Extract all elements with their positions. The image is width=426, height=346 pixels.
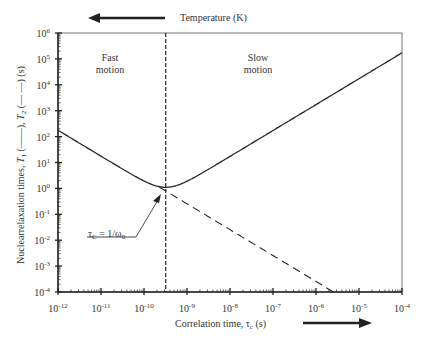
y-tick-label: 101 — [37, 157, 51, 169]
y-tick-label: 105 — [37, 53, 51, 65]
slow-motion-label: Slowmotion — [244, 52, 272, 75]
x-tick-label: 10-8 — [222, 302, 238, 314]
temperature-arrow-head — [88, 13, 100, 23]
relaxation-chart: 10-410-310-210-110010110210310410510610-… — [0, 0, 426, 346]
y-tick-label: 10-3 — [34, 260, 50, 272]
x-axis-label: Correlation time, τc (s) — [175, 318, 266, 331]
t2-curve — [160, 187, 334, 292]
tau-annotation: τC = 1/ω0 — [88, 228, 126, 241]
x-tick-label: 10-7 — [265, 302, 281, 314]
y-tick-label: 10-1 — [34, 208, 50, 220]
x-tick-label: 10-10 — [134, 302, 154, 314]
y-tick-label: 100 — [37, 182, 51, 194]
y-tick-label: 104 — [37, 79, 51, 91]
plot-area: 10-410-310-210-110010110210310410510610-… — [15, 12, 410, 331]
y-axis-label: Nuclearrelaxation times, T1 (——), T2 (— … — [15, 66, 28, 264]
y-tick-label: 10-4 — [34, 286, 50, 298]
x-tick-label: 10-12 — [48, 302, 68, 314]
x-tick-label: 10-5 — [351, 302, 367, 314]
x-tick-label: 10-4 — [394, 302, 410, 314]
y-tick-label: 106 — [37, 27, 51, 39]
y-tick-label: 10-2 — [34, 234, 50, 246]
y-tick-label: 102 — [37, 131, 51, 143]
annotation-arrowhead — [153, 194, 161, 203]
temperature-label: Temperature (K) — [180, 12, 247, 24]
x-tick-label: 10-9 — [179, 302, 195, 314]
correlation-arrow-head — [359, 318, 372, 328]
x-tick-label: 10-11 — [91, 302, 111, 314]
fast-motion-label: Fastmotion — [96, 52, 124, 75]
x-tick-label: 10-6 — [308, 302, 324, 314]
y-tick-label: 103 — [37, 105, 51, 117]
